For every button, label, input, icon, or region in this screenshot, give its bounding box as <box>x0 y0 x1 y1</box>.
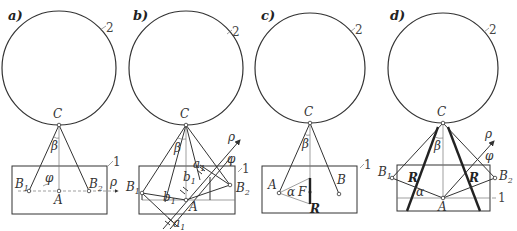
label-phi: φ <box>45 171 54 185</box>
label-b: B <box>336 173 346 187</box>
label-c: C <box>304 105 313 119</box>
label-r-right: R <box>468 171 479 185</box>
point-c <box>308 121 312 125</box>
label-c: C <box>53 107 62 121</box>
point-c <box>184 123 188 127</box>
label-phi: φ <box>227 152 236 166</box>
label-b2: B2 <box>235 181 250 197</box>
point-f <box>309 191 312 194</box>
point-a <box>277 191 281 195</box>
point-c <box>441 121 445 125</box>
panel-d-title: d) <box>390 8 405 23</box>
line-c-b2 <box>59 125 89 191</box>
label-2: 2 <box>232 25 240 39</box>
label-b2: B2 <box>88 177 103 193</box>
panel-c-title: c) <box>261 8 275 23</box>
label-c: C <box>180 107 189 121</box>
line-c-b1 <box>29 125 59 191</box>
label-c: C <box>437 105 446 119</box>
panel-b: b) 2 1 ρ φ β <box>125 8 250 231</box>
panel-c: c) 2 1 β C A B α F R <box>255 8 372 216</box>
label-b1: B1 <box>14 177 29 193</box>
label-rho: ρ <box>109 175 117 189</box>
line-c-b2 <box>186 125 230 185</box>
label-1: 1 <box>364 158 372 172</box>
label-a: A <box>53 193 63 207</box>
point-b <box>337 192 341 196</box>
point-b1 <box>140 191 144 195</box>
label-1: 1 <box>113 155 121 169</box>
force-line-right <box>448 127 480 211</box>
label-2: 2 <box>106 21 114 35</box>
point-c <box>57 123 61 127</box>
label-beta: β <box>301 137 309 151</box>
panel-b-title: b) <box>133 8 148 23</box>
panel-a-title: a) <box>8 8 23 23</box>
label-rho: ρ <box>227 130 235 144</box>
point-b2 <box>228 183 232 187</box>
label-phi: φ <box>485 149 494 163</box>
label-beta: β <box>173 141 181 155</box>
label-beta: β <box>50 139 58 153</box>
label-f: F <box>297 185 307 199</box>
label-rho: ρ <box>484 127 492 141</box>
line-c-a <box>279 123 310 193</box>
panel-a: a) 2 1 ρ β φ C B1 B2 A <box>2 8 121 214</box>
label-b1: B1 <box>125 180 140 196</box>
label-a: A <box>437 200 447 214</box>
label-1: 1 <box>242 162 250 176</box>
label-b2: B2 <box>498 169 513 185</box>
label-a1-bottom: a1 <box>173 216 185 231</box>
label-r: R <box>309 202 320 216</box>
point-b2 <box>493 176 497 180</box>
label-a: A <box>267 178 277 192</box>
panel-d: d) 2 1 ρ φ β C B1 B2 A R R α <box>377 8 513 214</box>
label-alpha: α <box>287 185 295 199</box>
label-b1-bottom: b1 <box>163 190 176 206</box>
line-c-b1 <box>142 125 186 193</box>
label-2: 2 <box>489 23 497 37</box>
label-2: 2 <box>355 23 363 37</box>
point-a <box>184 198 188 202</box>
label-alpha: α <box>416 185 424 199</box>
figure-canvas: a) 2 1 ρ β φ C B1 B2 A b) 2 1 <box>0 0 517 231</box>
label-1: 1 <box>498 191 506 205</box>
label-a1-top: a1 <box>193 157 205 173</box>
label-r-left: R <box>407 171 418 185</box>
label-b1-top: b1 <box>183 170 196 186</box>
line-c-b <box>310 123 339 194</box>
label-beta: β <box>433 139 441 153</box>
line-b2-a <box>186 185 230 200</box>
label-a: A <box>188 200 198 214</box>
label-b1: B1 <box>377 165 392 181</box>
